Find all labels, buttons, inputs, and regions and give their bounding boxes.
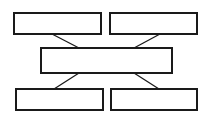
connector-top-left-to-middle [52,34,79,48]
connector-middle-to-bottom-right [134,73,159,89]
diagram-svg [0,0,213,120]
node-top-right[interactable] [110,13,197,34]
node-box-middle-center[interactable] [41,48,172,73]
connector-top-right-to-middle [134,34,160,48]
node-bottom-right[interactable] [111,89,197,110]
node-bottom-left[interactable] [16,89,103,110]
connector-middle-to-bottom-left [54,73,79,89]
node-box-bottom-right[interactable] [111,89,197,110]
node-box-bottom-left[interactable] [16,89,103,110]
node-top-left[interactable] [14,13,101,34]
node-group [14,13,197,110]
node-box-top-left[interactable] [14,13,101,34]
node-box-top-right[interactable] [110,13,197,34]
node-middle-center[interactable] [41,48,172,73]
diagram-canvas [0,0,213,120]
